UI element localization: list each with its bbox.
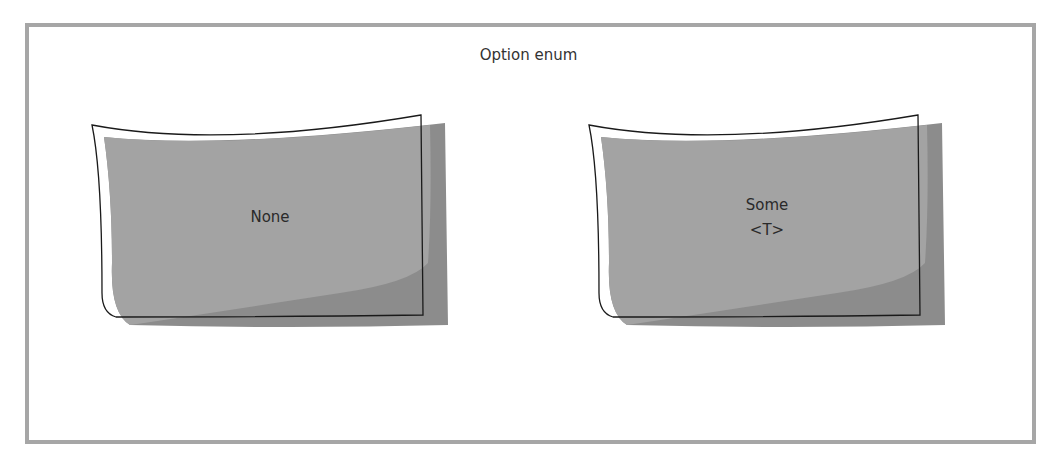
variant-type-param: <T>	[587, 218, 947, 243]
diagram-title: Option enum	[0, 46, 1057, 64]
variant-name: Some	[587, 193, 947, 218]
variant-card-some: Some <T>	[587, 113, 947, 328]
variant-label-none: None	[90, 205, 450, 230]
variant-card-none: None	[90, 113, 450, 328]
variant-label-some: Some <T>	[587, 193, 947, 243]
variant-name: None	[90, 205, 450, 230]
